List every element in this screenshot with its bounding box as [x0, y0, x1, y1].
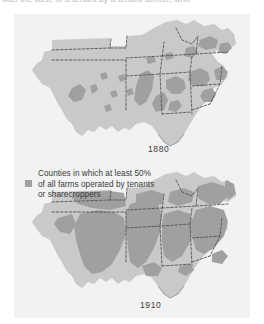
legend-line-1: Counties in which at least 50% [38, 169, 195, 180]
year-label-1910: 1910 [140, 300, 161, 310]
figure-panel: 1880 1910 Counties in which at least 50%… [14, 14, 250, 318]
legend-swatch-icon [25, 180, 32, 187]
map-legend: Counties in which at least 50% of all fa… [25, 169, 195, 201]
map-1880 [14, 14, 250, 166]
caption-text: was the case of a tenant by a tenant far… [2, 0, 190, 4]
legend-line-3: or sharecroppers [38, 190, 195, 201]
caption-strip: was the case of a tenant by a tenant far… [0, 0, 264, 10]
year-label-1880: 1880 [148, 144, 169, 154]
map-1880-graphic [14, 14, 250, 166]
legend-line-2: of all farms operated by tenants [38, 180, 195, 191]
